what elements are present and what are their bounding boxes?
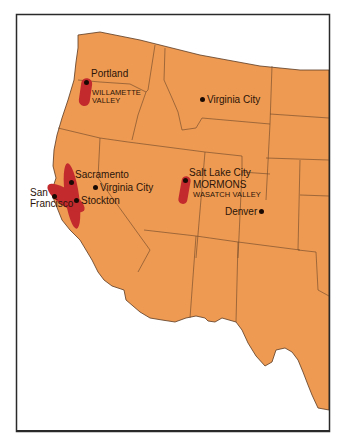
san-francisco-label-line1: San (30, 188, 48, 198)
stockton-marker[interactable] (74, 198, 79, 203)
denver-marker[interactable] (259, 209, 264, 214)
virginia-city-mt-marker[interactable] (200, 97, 205, 102)
virginia-city-nv-marker[interactable] (93, 185, 98, 190)
portland-label: Portland (91, 69, 128, 79)
portland-marker[interactable] (84, 80, 89, 85)
salt-lake-city-label: Salt Lake City (189, 168, 251, 178)
sacramento-marker[interactable] (69, 180, 74, 185)
virginia-city-nv-label: Virginia City (100, 183, 153, 193)
san-francisco-label-line2: Francisco (30, 199, 73, 209)
stockton-label: Stockton (81, 196, 120, 206)
sacramento-label: Sacramento (75, 170, 129, 180)
wasatch-valley-label: WASATCH VALLEY (193, 191, 261, 199)
salt-lake-city-marker[interactable] (183, 178, 188, 183)
virginia-city-mt-label: Virginia City (207, 95, 260, 105)
western-us-map (0, 0, 353, 446)
willamette-label-line2: VALLEY (92, 97, 120, 105)
mormons-label: MORMONS (193, 180, 246, 190)
denver-label: Denver (225, 207, 257, 217)
